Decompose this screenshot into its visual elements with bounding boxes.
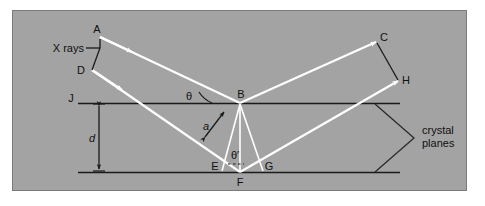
point-label-G: G [265,160,274,172]
point-label-B: B [237,88,244,100]
x-rays-label: X rays [53,42,85,54]
crystal-planes-label-line2: planes [422,137,455,149]
point-label-J: J [68,92,74,104]
point-label-C: C [380,31,388,43]
theta-prime-label: θ′ [231,149,239,161]
segment-a-label: a [203,120,209,132]
point-label-E: E [211,160,218,172]
point-label-A: A [93,23,101,35]
point-label-H: H [402,74,410,86]
bragg-diffraction-figure: A D J B E F G C H X rays d θ θ′ a crysta… [0,0,485,206]
theta-label: θ [186,90,192,102]
point-label-F: F [237,176,244,188]
point-label-D: D [77,64,85,76]
crystal-planes-label-line1: crystal [422,124,454,136]
spacing-label: d [89,132,96,144]
